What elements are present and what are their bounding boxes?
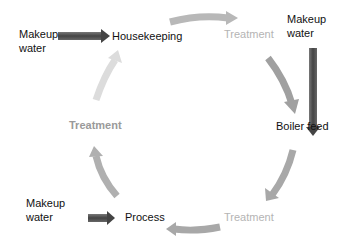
node-housekeeping: Housekeeping bbox=[112, 29, 182, 43]
node-process: Process bbox=[125, 210, 165, 224]
makeup-water-label-1-line2: water bbox=[19, 41, 58, 55]
makeup-water-label-3: Makeup water bbox=[26, 196, 65, 224]
makeup-water-label-2: Makeup water bbox=[287, 12, 326, 40]
arrow-treatment-to-process bbox=[166, 222, 220, 236]
arrow-housekeeping-to-treatment bbox=[170, 11, 238, 25]
makeup-arrow-housekeeping bbox=[58, 29, 110, 43]
node-treatment-top: Treatment bbox=[224, 27, 274, 41]
makeup-water-label-3-line1: Makeup bbox=[26, 196, 65, 210]
arrow-process-to-treatment bbox=[89, 146, 117, 196]
makeup-water-label-2-line2: water bbox=[287, 26, 326, 40]
arrow-treatment-to-boiler bbox=[268, 58, 299, 114]
node-treatment-left: Treatment bbox=[69, 118, 122, 132]
node-boiler-feed: Boiler feed bbox=[276, 119, 329, 133]
arrow-treatment-to-housekeeping bbox=[96, 50, 122, 100]
makeup-water-label-2-line1: Makeup bbox=[287, 12, 326, 26]
makeup-water-label-1: Makeup water bbox=[19, 27, 58, 55]
arrow-boiler-to-treatment bbox=[265, 150, 293, 201]
makeup-arrow-process bbox=[88, 211, 115, 225]
makeup-water-label-1-line1: Makeup bbox=[19, 27, 58, 41]
node-treatment-bottom: Treatment bbox=[224, 210, 274, 224]
makeup-water-label-3-line2: water bbox=[26, 210, 65, 224]
